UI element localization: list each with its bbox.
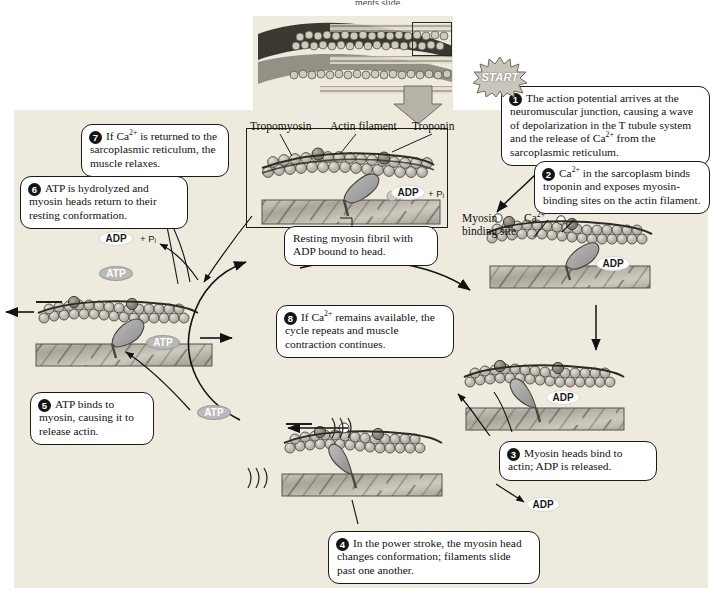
step-4-text: In the power stroke, the myosin head cha…	[337, 537, 531, 577]
step-3-number: 3	[507, 448, 520, 461]
step-6-callout[interactable]: 6 ATP is hydrolyzed and myosin heads ret…	[20, 176, 188, 229]
adp-pill-inset: ADP	[391, 185, 425, 200]
step-4-number: 4	[336, 538, 349, 551]
step-6-text: ATP is hydrolyzed and myosin heads retur…	[29, 182, 179, 222]
label-myosin-binding-site: Myosin binding site	[462, 212, 522, 238]
label-calcium-ion: Ca2+	[524, 212, 545, 225]
resting-fibril-caption: Resting myosin fibril with ADP bound to …	[284, 226, 438, 266]
step-7-callout[interactable]: 7 If Ca2+ is returned to the sarcoplasmi…	[81, 124, 229, 177]
step-2-text: Ca2+ in the sarcoplasm binds troponin an…	[543, 167, 701, 207]
step-7-text: If Ca2+ is returned to the sarcoplasmic …	[90, 130, 220, 170]
step-6-number: 6	[28, 183, 41, 196]
figure-canvas: ments slide.	[0, 0, 723, 597]
atp-pill-step5: ATP	[197, 405, 231, 420]
adp-pill-right-lower: ADP	[546, 390, 580, 405]
step-5-callout[interactable]: 5 ATP binds to myosin, causing it to rel…	[30, 392, 154, 445]
step-1-callout[interactable]: 1 The action potential arrives at the ne…	[501, 86, 710, 166]
step-1-text: The action potential arrives at the neur…	[510, 92, 701, 159]
atp-pill-left: ATP	[99, 266, 133, 281]
label-troponin: Troponin	[412, 120, 454, 133]
myosin-binding-site-line1: Myosin	[462, 212, 497, 224]
resting-fibril-caption-text: Resting myosin fibril with ADP bound to …	[293, 232, 429, 259]
step-2-number: 2	[542, 168, 555, 181]
step-5-text: ATP binds to myosin, causing it to relea…	[39, 398, 145, 438]
cropped-header-text: ments slide.	[355, 0, 403, 5]
pi-label-inset: + Pᵢ	[428, 188, 444, 199]
step-8-number: 8	[284, 312, 297, 325]
adp-pill-right-upper: ADP	[596, 256, 630, 271]
start-badge: START	[473, 57, 527, 97]
label-tropomyosin: Tropomyosin	[250, 120, 312, 133]
myosin-binding-site-line2: binding site	[462, 225, 516, 237]
step-3-callout[interactable]: 3 Myosin heads bind to actin; ADP is rel…	[499, 441, 657, 481]
adp-pill-bottom: ADP	[526, 497, 560, 512]
pi-label-left: + Pᵢ	[140, 233, 156, 244]
start-label: START	[473, 57, 527, 97]
step-4-callout[interactable]: 4 In the power stroke, the myosin head c…	[328, 531, 540, 584]
resting-fibril-frame	[246, 128, 448, 228]
micrograph-selection-box	[412, 22, 452, 56]
step-8-text: If Ca2+ remains available, the cycle rep…	[285, 311, 445, 351]
step-5-number: 5	[38, 399, 51, 412]
atp-pill-center: ATP	[146, 335, 180, 350]
step-2-callout[interactable]: 2 Ca2+ in the sarcoplasm binds troponin …	[534, 161, 710, 214]
step-7-number: 7	[89, 131, 102, 144]
adp-pill-left: ADP	[99, 231, 133, 246]
label-actin-filament: Actin filament	[330, 120, 397, 133]
step-3-text: Myosin heads bind to actin; ADP is relea…	[508, 447, 648, 474]
step-8-callout[interactable]: 8 If Ca2+ remains available, the cycle r…	[276, 305, 454, 358]
calcium-symbol: Ca	[524, 212, 537, 224]
